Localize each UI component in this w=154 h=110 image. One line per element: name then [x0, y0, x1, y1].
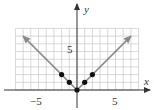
x-tick-label-5: 5 — [112, 96, 118, 107]
x-tick-label-neg5: −5 — [30, 96, 42, 107]
x-axis-label: x — [144, 76, 149, 87]
plot-area — [0, 0, 154, 110]
data-point — [82, 80, 87, 85]
data-point — [74, 87, 79, 92]
data-point — [90, 72, 95, 77]
y-tick-label-5: 5 — [67, 44, 73, 55]
data-point — [59, 72, 64, 77]
data-point — [67, 80, 72, 85]
y-axis-label: y — [84, 4, 89, 15]
